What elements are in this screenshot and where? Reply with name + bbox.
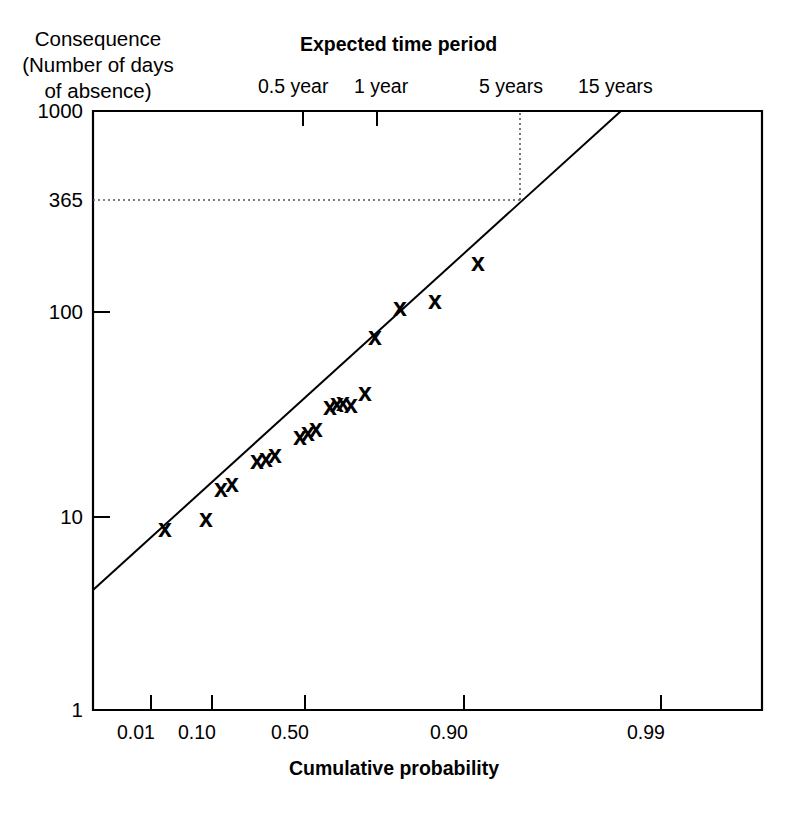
data-point-marker: x (358, 378, 372, 406)
plot-area: x x x x x x x x x x x x x x x x x x x (0, 0, 788, 813)
fit-line (93, 111, 621, 590)
axis-frame (93, 111, 762, 710)
reference-line-365-days (93, 111, 520, 200)
data-point-marker: x (393, 293, 407, 321)
data-point-marker: x (344, 390, 358, 418)
data-point-marker: x (309, 414, 323, 442)
data-point-marker: x (368, 322, 382, 350)
chart-figure: Consequence(Number of daysof absence) Ex… (0, 0, 788, 813)
bottom-axis-ticks (151, 695, 661, 710)
data-point-marker: x (471, 248, 485, 276)
data-point-marker: x (199, 504, 213, 532)
data-points: x x x x x x x x x x x x x x x x x x x (158, 248, 485, 542)
top-axis-ticks (303, 111, 377, 126)
data-point-marker: x (428, 286, 442, 314)
data-point-marker: x (225, 469, 239, 497)
data-point-marker: x (158, 514, 172, 542)
left-axis-ticks (93, 312, 110, 517)
data-point-marker: x (268, 440, 282, 468)
